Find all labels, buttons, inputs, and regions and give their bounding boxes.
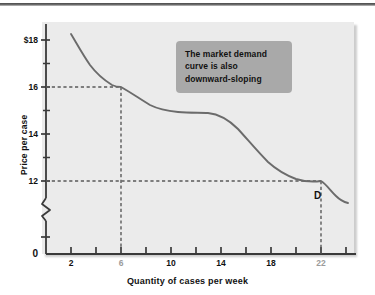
annotation-line-1: The market demand <box>185 48 283 60</box>
x-axis-title: Quantity of cases per week <box>127 276 248 286</box>
demand-curve-figure: $18 16 14 12 0 2 6 10 14 18 22 Price per… <box>0 0 375 295</box>
y-tick-label-18: $18 <box>8 35 38 45</box>
y-axis-origin-label: 0 <box>8 248 38 259</box>
annotation-line-2: curve is also <box>185 60 283 72</box>
x-tick-label-6: 6 <box>111 258 131 268</box>
x-tick-label-18: 18 <box>261 258 281 268</box>
y-tick-label-12: 12 <box>8 176 38 186</box>
x-tick-label-22: 22 <box>311 258 331 268</box>
demand-curve-label: D <box>314 190 321 201</box>
annotation-line-3: downward-sloping <box>185 73 283 85</box>
y-axis-break-symbol <box>42 198 50 221</box>
x-tick-label-2: 2 <box>61 258 81 268</box>
y-axis-title: Price per case <box>19 115 29 175</box>
annotation-callout: The market demand curve is also downward… <box>176 41 292 93</box>
x-tick-label-10: 10 <box>161 258 181 268</box>
x-axis-ticks <box>71 247 346 254</box>
x-tick-label-14: 14 <box>211 258 231 268</box>
y-tick-label-16: 16 <box>8 82 38 92</box>
